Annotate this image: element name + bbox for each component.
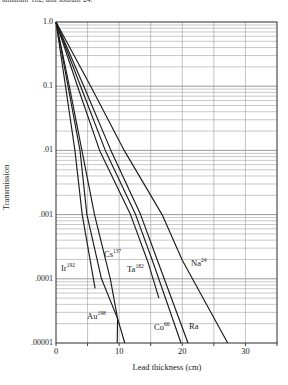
series-label-ta182: Ta182 — [127, 264, 144, 274]
series-label-cs137: Cs137 — [104, 249, 121, 259]
isotope-mass-number: 24 — [201, 257, 207, 263]
series-label-ra: Ra — [189, 322, 198, 331]
y-tick-label: 0.1 — [17, 82, 53, 90]
series-label-au198: Au198 — [87, 311, 106, 321]
isotope-mass-number: 198 — [97, 310, 105, 316]
attenuation-figure: tantalum-182, and sodium-24. Transmissio… — [0, 0, 288, 385]
series-label-co60: Co60 — [154, 322, 169, 332]
isotope-symbol: Au — [87, 311, 97, 321]
isotope-mass-number: 137 — [113, 248, 121, 254]
y-tick-label: .001 — [17, 211, 53, 219]
y-axis-title: Transmission — [2, 158, 11, 218]
isotope-mass-number: 192 — [67, 262, 75, 268]
isotope-symbol: Cs — [104, 249, 113, 259]
x-axis-title: Lead thickness (cm) — [96, 362, 238, 372]
series-line-na24 — [56, 22, 228, 343]
isotope-symbol: Co — [154, 322, 164, 332]
x-tick-label: 20 — [167, 347, 197, 356]
x-tick-label: 30 — [230, 347, 260, 356]
y-tick-label: .01 — [17, 146, 53, 154]
series-line-co60 — [56, 22, 181, 343]
chart-canvas — [0, 0, 288, 385]
series-label-na24: Na24 — [191, 258, 206, 268]
y-tick-label: .00001 — [17, 339, 53, 347]
isotope-mass-number: 182 — [135, 263, 143, 269]
plot-frame — [56, 22, 277, 343]
x-tick-label: 10 — [104, 347, 134, 356]
series-label-ir192: Ir192 — [61, 263, 75, 273]
series-line-ra — [56, 22, 188, 343]
isotope-symbol: Na — [191, 258, 201, 268]
x-tick-label: 0 — [41, 347, 71, 356]
y-tick-label: .0001 — [17, 275, 53, 283]
isotope-symbol: Ra — [189, 321, 198, 331]
isotope-mass-number: 60 — [164, 321, 170, 327]
y-tick-label: 1.0 — [17, 18, 53, 26]
